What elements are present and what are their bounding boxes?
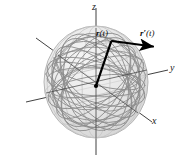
derivative-vector-label-arg: (t) (146, 28, 155, 38)
figure-canvas (0, 0, 182, 163)
position-vector-label: r(t) (96, 29, 108, 38)
y-axis-label: y (170, 63, 174, 73)
derivative-vector-label: r′(t) (140, 29, 155, 38)
x-axis-label: x (152, 116, 156, 126)
origin-point (94, 84, 98, 88)
vector-function-figure: z y x r(t) r′(t) (0, 0, 182, 163)
position-vector-label-arg: (t) (100, 28, 109, 38)
z-axis-label: z (92, 2, 96, 12)
